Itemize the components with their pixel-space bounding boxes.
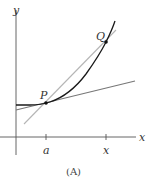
x-axis-label: x [139,131,146,144]
point-q-label: Q [96,30,105,43]
diagram-canvas: y x P Q a x (A) [0,0,149,182]
figure-caption: (A) [66,166,81,177]
secant-line [24,30,116,124]
tick-x-label: x [103,144,110,157]
tick-a-label: a [43,144,50,157]
y-axis-label: y [12,4,20,17]
point-p-label: P [39,89,48,102]
